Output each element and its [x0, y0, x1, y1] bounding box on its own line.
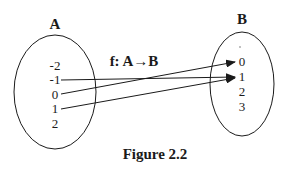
function-label: f: A→B — [110, 53, 159, 69]
arrow-1-to-1 — [61, 78, 235, 109]
set-b-element: 1 — [239, 69, 246, 84]
set-a-element: 1 — [52, 101, 59, 116]
set-b-label: B — [237, 11, 247, 27]
set-a-element: 2 — [52, 116, 59, 131]
diagram-canvas: A -2 -1 0 1 2 B 0 1 2 3 f: A→B Figure 2.… — [0, 0, 287, 169]
mapping-arrows — [61, 62, 235, 109]
function-diagram: A -2 -1 0 1 2 B 0 1 2 3 f: A→B Figure 2.… — [0, 0, 287, 169]
stray-dot — [239, 46, 240, 47]
set-b-element: 0 — [239, 54, 246, 69]
set-b: B 0 1 2 3 — [210, 11, 274, 136]
set-a: A -2 -1 0 1 2 — [14, 16, 96, 149]
set-b-element: 3 — [239, 99, 246, 114]
set-a-element: -2 — [50, 58, 61, 73]
figure-caption: Figure 2.2 — [123, 146, 188, 162]
set-a-element: 0 — [52, 87, 59, 102]
set-a-label: A — [50, 16, 61, 32]
set-b-element: 2 — [239, 84, 246, 99]
set-a-element: -1 — [50, 72, 61, 87]
